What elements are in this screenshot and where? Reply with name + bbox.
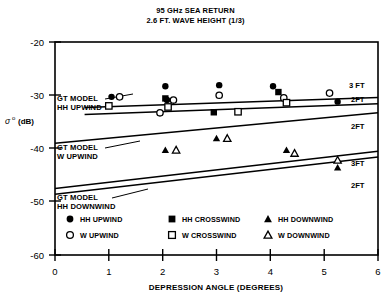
curve-right-label: 2FT bbox=[351, 181, 365, 190]
annotation-line-1: GT MODEL bbox=[57, 143, 98, 152]
annotation-line-1: GT MODEL bbox=[57, 94, 98, 103]
data-point-open-circle bbox=[326, 90, 332, 96]
chart-legend: HH UPWINDHH CROSSWINDHH DOWNWINDW UPWIND… bbox=[67, 215, 334, 240]
x-axis-label: DEPRESSION ANGLE (DEGREES) bbox=[149, 283, 283, 292]
curve-right-labels: 3 FT 2FT 2FT 3FT 2FT bbox=[349, 81, 365, 190]
legend-marker-open-square bbox=[169, 232, 176, 239]
y-axis-label-unit: (dB) bbox=[18, 117, 34, 126]
data-point-filled-circle bbox=[334, 98, 340, 104]
data-point-filled-circle bbox=[216, 82, 222, 88]
y-axis-tick-labels: -20 -30 -40 -50 -60 bbox=[30, 37, 44, 261]
data-point-filled-square bbox=[211, 109, 217, 115]
y-axis-label-symbol: σ bbox=[5, 116, 11, 126]
y-tick-label: -20 bbox=[30, 37, 44, 48]
data-point-filled-square bbox=[275, 89, 281, 95]
annotation-line-2: HH DOWNWIND bbox=[57, 202, 116, 211]
legend-marker-filled-circle bbox=[67, 216, 74, 223]
data-point-open-triangle bbox=[224, 135, 231, 142]
data-point-open-square bbox=[106, 103, 112, 109]
data-point-open-square bbox=[283, 100, 289, 106]
data-point-filled-square bbox=[162, 95, 168, 101]
data-point-open-square bbox=[165, 104, 171, 110]
data-point-filled-circle bbox=[162, 83, 168, 89]
plot-svg: -20 -30 -40 -50 -60 σ o (dB) 0 1 2 3 bbox=[0, 0, 391, 303]
x-axis-tick-labels: 0 1 2 3 4 5 6 bbox=[52, 266, 380, 277]
legend-marker-open-circle bbox=[67, 232, 74, 239]
annotation-line-2: W UPWIND bbox=[57, 152, 98, 161]
legend-label: HH DOWNWIND bbox=[278, 215, 333, 224]
legend-marker-filled-square bbox=[169, 216, 176, 223]
data-point-open-circle bbox=[170, 97, 176, 103]
y-axis-label: σ o (dB) bbox=[5, 115, 34, 126]
data-point-open-circle bbox=[157, 110, 163, 116]
model-curve bbox=[55, 157, 378, 194]
curve-right-label: 2FT bbox=[351, 95, 365, 104]
legend-label: HH UPWIND bbox=[80, 215, 122, 224]
legend-marker-filled-triangle bbox=[264, 215, 272, 222]
y-tick-label: -30 bbox=[30, 90, 44, 101]
data-point-filled-circle bbox=[270, 83, 276, 89]
x-tick-label: 1 bbox=[106, 266, 111, 277]
chart-figure: 95 GHz SEA RETURN 2.6 FT. WAVE HEIGHT (1… bbox=[0, 0, 391, 303]
annotation-gt-model-hh-downwind: GT MODEL HH DOWNWIND bbox=[57, 193, 116, 211]
legend-marker-open-triangle bbox=[264, 231, 272, 238]
data-point-open-square bbox=[235, 109, 241, 115]
y-tick-label: -60 bbox=[30, 250, 44, 261]
x-tick-label: 0 bbox=[52, 266, 57, 277]
curve-right-label: 3 FT bbox=[349, 81, 365, 90]
x-tick-label: 5 bbox=[322, 266, 327, 277]
data-point-open-triangle bbox=[291, 150, 298, 157]
legend-label: W DOWNWIND bbox=[278, 231, 330, 240]
data-markers bbox=[106, 82, 342, 171]
x-tick-label: 2 bbox=[160, 266, 165, 277]
legend-label: W UPWIND bbox=[80, 231, 119, 240]
data-point-filled-triangle bbox=[162, 146, 169, 153]
x-tick-label: 3 bbox=[214, 266, 219, 277]
data-point-filled-triangle bbox=[283, 146, 290, 153]
data-point-open-circle bbox=[216, 92, 222, 98]
model-curve bbox=[55, 151, 378, 188]
annotation-gt-model-w-upwind: GT MODEL W UPWIND bbox=[57, 143, 98, 161]
x-tick-label: 4 bbox=[268, 266, 273, 277]
y-tick-label: -40 bbox=[30, 143, 44, 154]
curve-right-label: 2FT bbox=[351, 122, 365, 131]
annotation-line-1: GT MODEL bbox=[57, 193, 98, 202]
data-point-open-triangle bbox=[334, 157, 341, 164]
curve-right-label: 3FT bbox=[351, 159, 365, 168]
y-tick-label: -50 bbox=[30, 196, 44, 207]
legend-label: HH CROSSWIND bbox=[182, 215, 240, 224]
data-point-filled-triangle bbox=[213, 135, 220, 142]
annotation-line-2: HH UPWIND bbox=[57, 103, 102, 112]
y-axis-label-superscript: o bbox=[12, 115, 16, 121]
data-point-filled-triangle bbox=[334, 164, 341, 171]
data-point-open-triangle bbox=[172, 146, 179, 153]
data-point-open-circle bbox=[116, 94, 122, 100]
annotation-gt-model-hh-upwind: GT MODEL HH UPWIND bbox=[57, 94, 102, 112]
data-point-filled-circle bbox=[108, 94, 114, 100]
legend-label: W CROSSWIND bbox=[182, 231, 237, 240]
x-tick-label: 6 bbox=[375, 266, 380, 277]
